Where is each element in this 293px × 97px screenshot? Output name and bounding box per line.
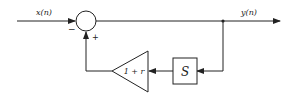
plus-sign: + (92, 33, 99, 42)
feedback-line-left (86, 32, 112, 71)
summing-junction (76, 11, 96, 31)
output-label: y(n) (240, 8, 257, 17)
block-diagram: S 1 + r x(n) y(n) − + (0, 0, 293, 97)
feedback-line-right (197, 21, 223, 71)
delay-block-label: S (181, 65, 189, 79)
input-label: x(n) (36, 8, 52, 17)
gain-block-label: 1 + r (124, 67, 146, 76)
minus-sign: − (68, 24, 76, 34)
